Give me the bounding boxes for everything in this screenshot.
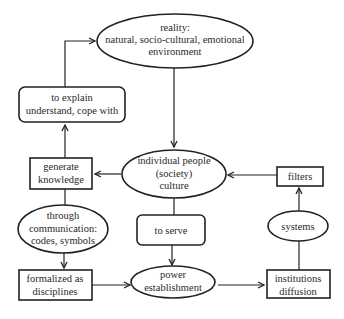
flow-diagram: reality: natural, socio-cultural, emotio… bbox=[0, 0, 344, 319]
node-communication: through communication: codes, symbols bbox=[18, 205, 108, 253]
node-power-line-1: power bbox=[160, 269, 187, 280]
node-generate: generate knowledge bbox=[30, 158, 92, 189]
node-individual-line-2: (society) bbox=[156, 168, 193, 180]
node-reality-line-2: natural, socio-cultural, emotional bbox=[105, 34, 244, 45]
node-power-line-2: establishment bbox=[144, 282, 202, 293]
node-individual-line-3: culture bbox=[159, 180, 188, 191]
node-institutions: institutions diffusion bbox=[267, 270, 330, 298]
node-filters-line-1: filters bbox=[288, 171, 313, 182]
node-generate-line-2: knowledge bbox=[38, 174, 84, 185]
node-institutions-line-2: diffusion bbox=[279, 286, 317, 297]
node-power: power establishment bbox=[131, 266, 215, 298]
node-individual: individual people (society) culture bbox=[122, 150, 226, 198]
node-communication-line-2: communication: bbox=[29, 223, 97, 234]
node-formalized-line-1: formalized as bbox=[27, 273, 84, 284]
node-systems: systems bbox=[268, 211, 328, 241]
node-explain-line-2: understand, cope with bbox=[26, 105, 119, 116]
node-serve: to serve bbox=[137, 215, 205, 245]
node-reality: reality: natural, socio-cultural, emotio… bbox=[97, 14, 253, 68]
edge-explain-to-reality bbox=[65, 41, 95, 87]
node-institutions-line-1: institutions bbox=[275, 273, 322, 284]
node-individual-line-1: individual people bbox=[137, 155, 211, 166]
node-formalized: formalized as disciplines bbox=[19, 270, 92, 300]
node-communication-line-1: through bbox=[47, 210, 80, 221]
node-systems-line-1: systems bbox=[281, 221, 314, 232]
node-reality-line-3: environment bbox=[148, 46, 201, 57]
node-communication-line-3: codes, symbols bbox=[31, 235, 95, 246]
node-filters: filters bbox=[277, 167, 323, 186]
node-reality-line-1: reality: bbox=[160, 22, 190, 33]
node-explain: to explain understand, cope with bbox=[19, 87, 125, 122]
node-explain-line-1: to explain bbox=[51, 92, 93, 103]
node-formalized-line-2: disciplines bbox=[33, 286, 78, 297]
node-generate-line-1: generate bbox=[43, 161, 79, 172]
node-serve-line-1: to serve bbox=[155, 225, 188, 236]
